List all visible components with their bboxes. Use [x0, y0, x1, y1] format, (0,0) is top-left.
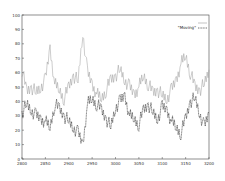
y-tick-label: 100 [12, 13, 20, 18]
x-tick-label: 3150 [181, 161, 192, 166]
y-tick-label: 60 [15, 70, 21, 75]
y-tick-label: 30 [15, 113, 21, 118]
y-tick-label: 90 [15, 27, 21, 32]
x-tick-label: 2950 [87, 161, 98, 166]
x-tick-label: 2850 [40, 161, 51, 166]
y-tick-label: 40 [15, 99, 21, 104]
y-tick-label: 20 [15, 128, 21, 133]
x-tick-label: 2800 [17, 161, 28, 166]
line-chart: 0102030405060708090100 28002850290029503… [0, 0, 225, 181]
x-tick-label: 3000 [110, 161, 121, 166]
y-tick-label: 50 [15, 85, 21, 90]
x-tick-label: 2900 [64, 161, 75, 166]
x-tick-label: 3100 [157, 161, 168, 166]
x-tick-label: 3200 [204, 161, 215, 166]
y-tick-label: 80 [15, 41, 21, 46]
y-tick-label: 70 [15, 56, 21, 61]
y-tick-label: 10 [15, 142, 21, 147]
x-tick-label: 3050 [134, 161, 145, 166]
legend-label-series-2: "Moving" [178, 25, 196, 30]
